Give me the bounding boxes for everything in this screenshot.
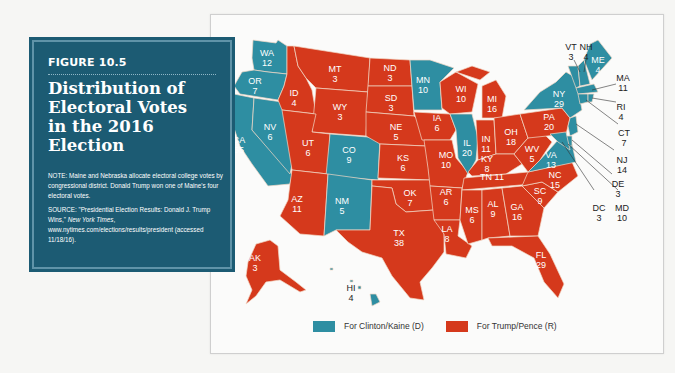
figure-title-line: Electoral Votes <box>48 98 226 117</box>
state-label-nc: NC15 <box>549 170 562 190</box>
state-label-wi: WI10 <box>456 84 467 104</box>
legend-item-republican: For Trump/Pence (R) <box>446 321 557 332</box>
state-label-vt: VT3 <box>565 42 577 62</box>
state-label-de: DE3 <box>612 179 625 199</box>
legend-swatch-republican <box>446 321 468 332</box>
map-legend: For Clinton/Kaine (D) For Trump/Pence (R… <box>313 319 579 333</box>
state-label-va: VA13 <box>545 150 556 170</box>
state-ct <box>578 94 588 104</box>
state-label-dc: DC3 <box>593 203 606 223</box>
state-label-fl: FL29 <box>536 250 547 270</box>
figure-title: Distribution of Electoral Votes in the 2… <box>48 79 226 155</box>
state-label-ma: MA11 <box>616 73 630 93</box>
figure-source: SOURCE: "Presidential Election Results: … <box>48 205 224 245</box>
figure-title-line: Distribution of <box>48 79 226 98</box>
state-label-ga: GA16 <box>510 202 523 222</box>
state-label-nj: NJ14 <box>617 155 628 175</box>
dotted-divider <box>48 74 216 75</box>
state-label-ca: CA55 <box>233 135 246 155</box>
legend-swatch-democrat <box>313 321 335 332</box>
state-label-hi: HI4 <box>347 283 356 303</box>
state-nj <box>568 116 578 136</box>
legend-label: For Clinton/Kaine (D) <box>344 321 424 331</box>
legend-item-democrat: For Clinton/Kaine (D) <box>313 321 424 332</box>
state-label-mn: MN10 <box>416 75 430 95</box>
state-label-ri: RI4 <box>617 102 626 122</box>
figure-title-line: in the 2016 <box>48 117 226 136</box>
figure-caption-panel: FIGURE 10.5 Distribution of Electoral Vo… <box>32 40 232 269</box>
us-electoral-map: WA12OR7CA55NV6ID4MT3WY3UT6CO9AZ11NM5ND3S… <box>210 14 662 314</box>
state-label-tn: TN 11 <box>480 172 504 182</box>
state-label-pa: PA20 <box>543 112 554 132</box>
state-label-oh: OH18 <box>504 127 518 147</box>
legend-label: For Trump/Pence (R) <box>477 321 557 331</box>
figure-note: NOTE: Maine and Nebraska allocate electo… <box>48 171 224 201</box>
state-label-az: AZ11 <box>291 194 303 214</box>
state-fl <box>488 236 564 298</box>
figure-title-line: Election <box>48 136 226 155</box>
state-label-mi: MI16 <box>487 94 497 114</box>
state-label-ct: CT7 <box>618 128 630 148</box>
figure-number: FIGURE 10.5 <box>48 56 127 69</box>
state-co <box>326 134 380 180</box>
state-label-md: MD10 <box>615 203 629 223</box>
state-label-wa: WA12 <box>260 48 274 68</box>
state-label-tx: TX38 <box>393 228 405 248</box>
state-label-ny: NY29 <box>553 89 566 109</box>
state-label-in: IN11 <box>481 134 490 154</box>
state-label-il: IL20 <box>462 138 472 158</box>
source-publication: New York Times <box>68 216 114 223</box>
